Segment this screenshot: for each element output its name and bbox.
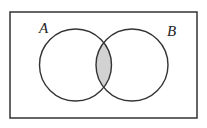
set-a-label: A: [38, 20, 49, 36]
venn-diagram-canvas: A B: [0, 0, 207, 128]
venn-diagram: A B: [0, 0, 207, 128]
intersection-region: [96, 43, 111, 88]
set-b-label: B: [167, 23, 176, 39]
